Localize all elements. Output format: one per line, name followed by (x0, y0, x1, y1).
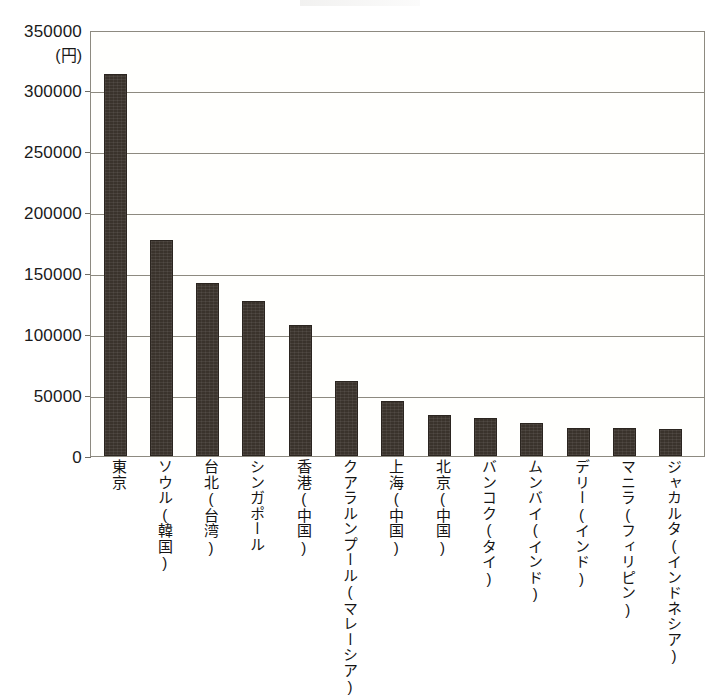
gridline-50000 (91, 397, 704, 398)
bar (520, 423, 543, 456)
bar (289, 325, 312, 456)
x-tick-label: 上海(中国) (379, 459, 405, 556)
x-tick-label: ジャカルタ(インドネシア) (657, 459, 683, 665)
y-tick-label: 350000 (0, 22, 82, 42)
y-tick-label: 100000 (0, 326, 82, 346)
plot-area (90, 31, 705, 457)
gridline-100000 (91, 336, 704, 337)
x-tick-label: クアラルンプール(マレーシア) (333, 459, 359, 696)
gridline-300000 (91, 92, 704, 93)
x-tick-label: 北京(中国) (425, 459, 451, 556)
bar (567, 428, 590, 456)
gridline-200000 (91, 214, 704, 215)
bar (659, 429, 682, 456)
x-tick-label: 東京 (101, 459, 127, 490)
x-tick-label: シンガポール (240, 459, 266, 552)
x-tick-label: ムンバイ(インド) (518, 459, 544, 603)
bar (335, 381, 358, 456)
bar (613, 428, 636, 456)
bar (196, 283, 219, 456)
y-tick-label: 50000 (0, 387, 82, 407)
x-tick-label: バンコク(タイ) (471, 459, 497, 587)
gridline-250000 (91, 153, 704, 154)
bar (104, 74, 127, 456)
x-tick-label: 台北(台湾) (194, 459, 220, 556)
x-tick-label: デリー(インド) (564, 459, 590, 587)
y-tick-label: 300000 (0, 82, 82, 102)
cropped-title-artifact (300, 0, 420, 6)
x-tick-label: 香港(中国) (286, 459, 312, 556)
bar (150, 240, 173, 456)
bar (242, 301, 265, 456)
cropped-footer-text (0, 676, 710, 687)
y-axis-unit: (円) (0, 42, 82, 66)
x-tick-label: マニラ(フィリピン) (610, 459, 636, 618)
y-tick-mark (85, 457, 91, 458)
x-axis-labels: 東京ソウル(韓国)台北(台湾)シンガポール香港(中国)クアラルンプール(マレーシ… (0, 459, 710, 687)
y-tick-label: 200000 (0, 204, 82, 224)
y-tick-label: 150000 (0, 265, 82, 285)
gridline-150000 (91, 275, 704, 276)
y-tick-label: 250000 (0, 143, 82, 163)
bar (428, 415, 451, 456)
bar (474, 418, 497, 456)
x-tick-label: ソウル(韓国) (147, 459, 173, 572)
bar (381, 401, 404, 456)
